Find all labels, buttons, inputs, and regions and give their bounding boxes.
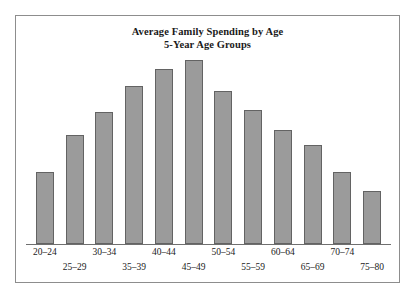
bar-slot [209, 60, 239, 244]
bar-slot [357, 60, 387, 244]
x-axis-tick-label: 75–80 [357, 262, 387, 272]
x-axis-labels: 20–2425–2930–3435–3940–4445–4950–5455–59… [30, 247, 387, 281]
bar-slot [328, 60, 358, 244]
x-axis-tick-label: 55–59 [238, 262, 268, 272]
bar[interactable] [274, 130, 292, 244]
bar[interactable] [363, 191, 381, 244]
x-axis-tick-label: 20–24 [30, 247, 60, 257]
bar[interactable] [333, 172, 351, 244]
bar-slot [268, 60, 298, 244]
bar-slot [179, 60, 209, 244]
chart-title: Average Family Spending by Age [132, 26, 284, 37]
bar[interactable] [95, 112, 113, 244]
bar-slot [298, 60, 328, 244]
bar[interactable] [66, 135, 84, 244]
bar[interactable] [214, 91, 232, 244]
chart-title-block: Average Family Spending by Age 5-Year Ag… [16, 26, 399, 51]
x-axis-tick-label: 70–74 [328, 247, 358, 257]
x-axis-tick-label: 60–64 [268, 247, 298, 257]
bar-slot [60, 60, 90, 244]
bar[interactable] [185, 60, 203, 244]
bar-slot [30, 60, 60, 244]
x-axis-tick-label: 65–69 [298, 262, 328, 272]
x-axis-tick-label: 45–49 [179, 262, 209, 272]
bar-slot [149, 60, 179, 244]
bar[interactable] [125, 86, 143, 244]
x-axis-tick-label: 35–39 [119, 262, 149, 272]
x-axis-tick-label: 50–54 [209, 247, 239, 257]
bar-slot [238, 60, 268, 244]
x-axis-line [26, 244, 391, 245]
chart-subtitle: 5-Year Age Groups [16, 39, 399, 52]
chart-frame: Average Family Spending by Age 5-Year Ag… [15, 15, 400, 283]
x-axis-tick-label: 30–34 [90, 247, 120, 257]
bar[interactable] [36, 172, 54, 244]
bar[interactable] [155, 69, 173, 244]
bar[interactable] [244, 110, 262, 244]
bar-slot [90, 60, 120, 244]
bar-slot [119, 60, 149, 244]
x-axis-tick-label: 40–44 [149, 247, 179, 257]
bar[interactable] [304, 145, 322, 244]
bar-series [30, 60, 387, 244]
plot-area [30, 60, 387, 244]
x-axis-tick-label: 25–29 [60, 262, 90, 272]
